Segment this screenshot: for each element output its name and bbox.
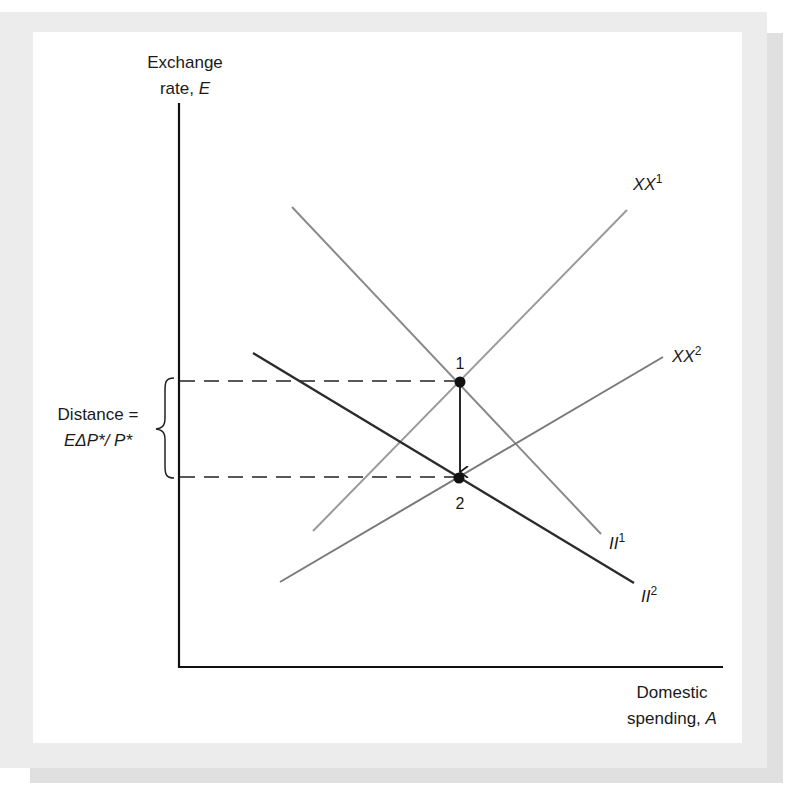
equilibrium-point-2 xyxy=(454,473,465,484)
distance-label: Distance = xyxy=(58,405,139,424)
curve-xx2 xyxy=(280,357,663,582)
x-axis-label-line2: spending, A xyxy=(627,709,717,728)
curve-ii2 xyxy=(253,353,634,583)
distance-brace xyxy=(156,378,174,478)
y-axis-label-line2: rate, E xyxy=(160,79,211,98)
x-axis-label: Domestic xyxy=(637,683,708,702)
y-axis-label: Exchange xyxy=(147,53,223,72)
label-ii1: II1 xyxy=(609,531,625,553)
point-2-label: 2 xyxy=(456,495,465,512)
label-xx1: XX1 xyxy=(632,172,663,194)
label-ii2: II2 xyxy=(641,584,657,606)
label-xx2: XX2 xyxy=(671,344,702,366)
point-1-label: 1 xyxy=(456,355,465,372)
distance-formula: EΔP*/ P* xyxy=(64,431,133,450)
equilibrium-point-1 xyxy=(455,377,466,388)
diagram: Exchange rate, E Domestic spending, A Di… xyxy=(0,0,796,790)
